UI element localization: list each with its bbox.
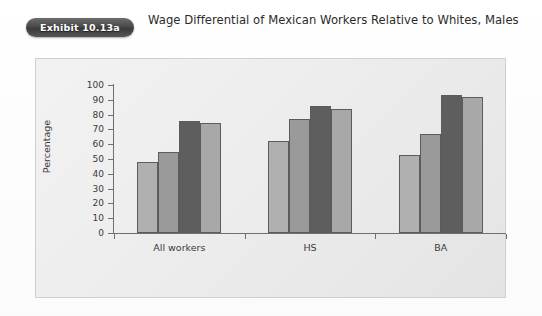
y-axis-tick-mark <box>108 129 113 130</box>
bar <box>137 162 158 233</box>
y-axis-tick-label: 50 <box>74 154 104 164</box>
figure-title: Wage Differential of Mexican Workers Rel… <box>148 13 520 29</box>
figure-header: Exhibit 10.13a Wage Differential of Mexi… <box>0 0 542 58</box>
x-axis-tick-mark <box>375 234 376 239</box>
bar <box>268 141 289 233</box>
y-axis-tick-mark <box>108 189 113 190</box>
y-axis-tick-mark <box>108 203 113 204</box>
y-axis-tick-mark <box>108 233 113 234</box>
y-axis-tick-mark <box>108 144 113 145</box>
exhibit-number-badge: Exhibit 10.13a <box>26 18 134 37</box>
y-axis-tick-label: 60 <box>74 139 104 149</box>
y-axis-tick-mark <box>108 174 113 175</box>
chart-panel: Percentage 0102030405060708090100 All wo… <box>35 58 506 298</box>
y-axis-tick-mark <box>108 218 113 219</box>
y-axis-tick-mark <box>108 100 113 101</box>
bar <box>441 95 462 233</box>
bar <box>420 134 441 233</box>
bar <box>289 119 310 233</box>
bar <box>310 106 331 233</box>
y-axis-tick-mark <box>108 85 113 86</box>
x-axis-tick-mark <box>506 234 507 239</box>
y-axis-tick-mark <box>108 115 113 116</box>
bar <box>200 123 221 233</box>
bar <box>331 109 352 233</box>
y-axis-tick-label: 30 <box>74 184 104 194</box>
bar <box>158 152 179 233</box>
plot-area <box>114 85 506 233</box>
y-axis-tick-label: 90 <box>74 95 104 105</box>
bar <box>462 97 483 233</box>
y-axis-tick-label: 70 <box>74 124 104 134</box>
x-axis-tick-mark <box>245 234 246 239</box>
x-axis-category-label: HS <box>303 242 316 253</box>
x-axis-category-label: All workers <box>153 242 205 253</box>
x-axis-tick-mark <box>114 234 115 239</box>
x-axis-category-label: BA <box>434 242 447 253</box>
y-axis-tick-label: 20 <box>74 198 104 208</box>
y-axis-tick-label: 80 <box>74 110 104 120</box>
y-axis-tick-label: 10 <box>74 213 104 223</box>
y-axis-tick-label: 0 <box>74 228 104 238</box>
y-axis-tick-label: 40 <box>74 169 104 179</box>
y-axis-tick-mark <box>108 159 113 160</box>
y-axis-tick-label: 100 <box>74 80 104 90</box>
bar <box>399 155 420 233</box>
exhibit-figure: Exhibit 10.13a Wage Differential of Mexi… <box>0 0 542 316</box>
bar <box>179 121 200 233</box>
